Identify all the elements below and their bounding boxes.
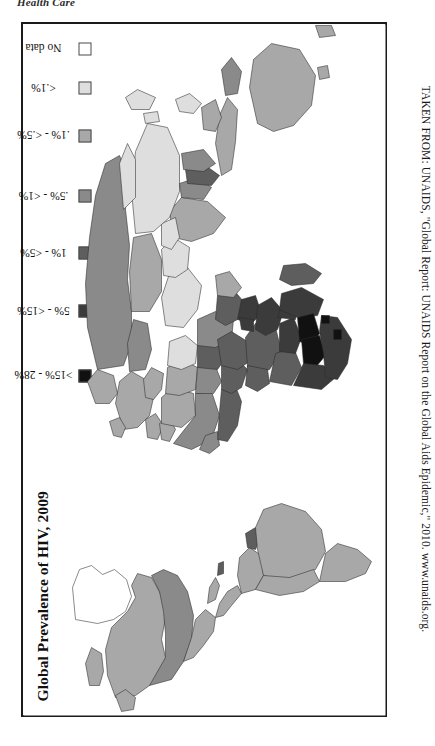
region-cuba — [207, 577, 219, 603]
region-uganda — [239, 317, 253, 331]
region-greenland — [72, 565, 131, 623]
region-korea — [143, 111, 159, 123]
region-tasmania — [317, 65, 329, 79]
figure-title: Global Prevalence of HIV, 2009 — [33, 491, 51, 701]
figure-frame: Global Prevalence of HIV, 2009 >15% - 28… — [21, 22, 387, 717]
region-new-zealand — [315, 25, 335, 37]
legend-label-1: 5% - <15% — [17, 305, 69, 317]
region-somalia — [215, 271, 241, 297]
figure-source-citation: TAKEN FROM: UNAIDS, "Global Report: UNAI… — [417, 24, 435, 694]
region-philippines — [175, 93, 201, 113]
page-running-head: Health Care — [17, 0, 75, 8]
region-madagascar — [279, 263, 321, 285]
legend-label-3: .5% - <1% — [18, 189, 68, 201]
region-australia — [249, 43, 315, 131]
region-central-asia — [129, 233, 161, 311]
legend-label-5: <.1% — [31, 81, 56, 93]
region-brazil — [255, 503, 325, 579]
map-svg — [69, 24, 381, 715]
legend-label-4: .1% - <.5% — [17, 129, 69, 141]
figure-canvas: Global Prevalence of HIV, 2009 >15% - 28… — [23, 24, 385, 715]
region-central-america — [215, 585, 241, 617]
region-papua-new-guinea — [221, 57, 241, 95]
legend-label-2: 1% - <5% — [20, 246, 67, 258]
legend-label-6: No data — [25, 42, 61, 54]
region-canada-arctic-isles — [85, 647, 103, 685]
region-japan — [125, 89, 155, 109]
region-borneo — [201, 99, 221, 131]
region-hispaniola — [217, 561, 223, 575]
region-scandinavia — [87, 369, 117, 403]
figure-source-citation-text: TAKEN FROM: UNAIDS, "Global Report: UNAI… — [420, 86, 432, 632]
region-egypt — [167, 335, 197, 369]
region-gabon-congo — [245, 365, 269, 391]
region-swaziland — [321, 315, 329, 323]
world-choropleth-map — [69, 24, 381, 715]
legend-label-0: >15% - 28% — [14, 369, 72, 381]
region-cambodia-vietnam — [181, 149, 215, 171]
region-lesotho — [333, 329, 341, 339]
region-italy-balkans — [143, 367, 163, 399]
region-argentina-chile — [319, 543, 371, 581]
region-mozambique — [279, 287, 323, 317]
